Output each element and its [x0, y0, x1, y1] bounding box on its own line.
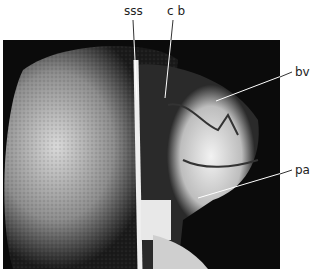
anatomical-photograph — [3, 40, 280, 269]
label-cb: c b — [167, 5, 185, 17]
label-bv: bv — [295, 66, 310, 78]
label-pa: pa — [295, 164, 310, 176]
label-sss: sss — [124, 5, 143, 17]
